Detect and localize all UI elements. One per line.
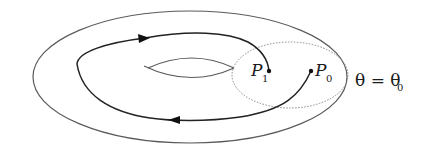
trajectory-path [77,33,311,120]
arrow-icon-bottom [168,116,180,124]
arrow-icon-top [138,34,150,43]
label-section-theta: θ = θ [355,70,401,90]
torus-hole-upper [148,58,234,68]
label-section-subscript: 0 [397,82,403,93]
label-p0-subscript: 0 [326,73,332,84]
point-p0 [309,69,313,73]
label-p1-subscript: 1 [262,73,268,84]
torus-hole-lower [144,66,234,78]
torus-diagram: P 1 P 0 θ = θ 0 [0,0,423,154]
